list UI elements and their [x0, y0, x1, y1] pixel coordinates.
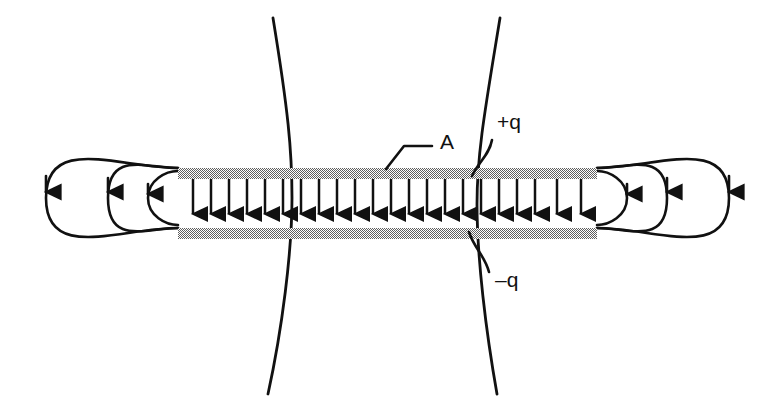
fringe-loops-right — [597, 159, 729, 237]
area-label: A — [440, 130, 454, 153]
fringe-loop-left-outer — [46, 159, 178, 237]
fringe-loop-right-inner — [597, 171, 627, 225]
area-leader-line — [386, 146, 432, 169]
interior-field-arrows — [193, 179, 581, 214]
fringe-loop-right-outer — [597, 159, 729, 237]
fringe-loops-left — [46, 159, 178, 237]
gaussian-curve-left — [268, 18, 292, 394]
positive-charge-label: +q — [497, 110, 521, 133]
fringe-loop-left-inner — [148, 171, 178, 225]
bottom-plate — [178, 228, 597, 239]
gaussian-surface-curves — [268, 18, 500, 394]
fringe-loop-left-middle — [108, 165, 178, 232]
capacitor-field-figure: A +q –q — [0, 0, 767, 412]
negative-charge-label: –q — [495, 268, 518, 291]
figure-canvas: A +q –q — [0, 0, 767, 412]
top-plate — [178, 168, 597, 179]
fringe-loop-right-middle — [597, 165, 667, 232]
